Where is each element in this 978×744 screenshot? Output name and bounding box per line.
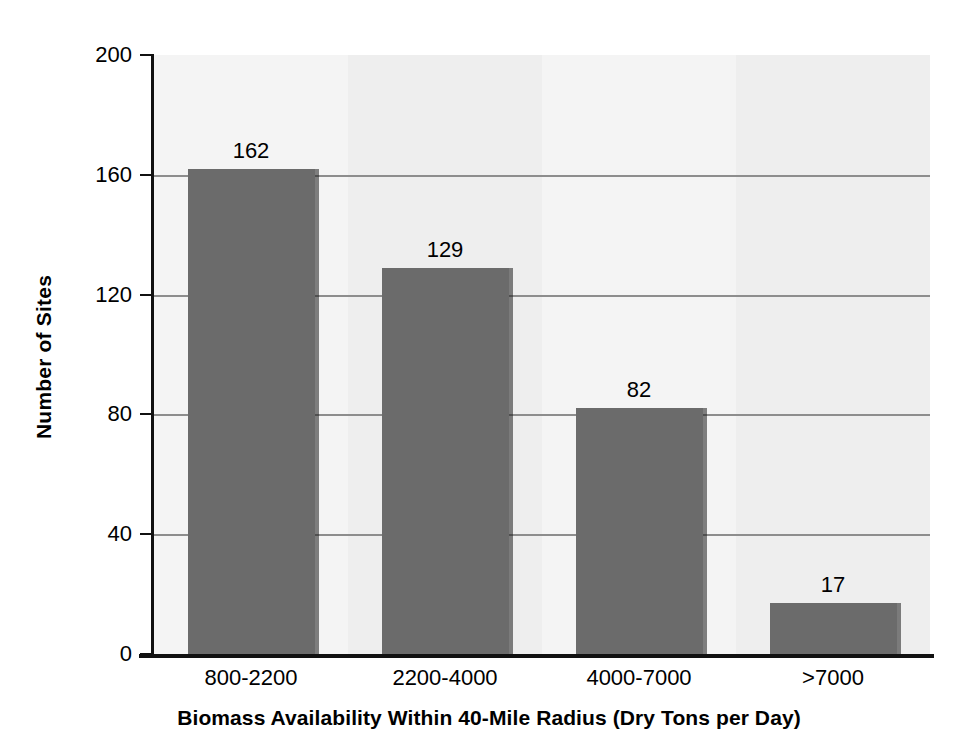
bar-chart: Number of Sites 20016012080400 162129821… bbox=[0, 0, 978, 744]
x-axis-category-label: >7000 bbox=[733, 665, 933, 691]
bar-value-label: 162 bbox=[191, 139, 311, 163]
x-axis-category-label: 4000-7000 bbox=[539, 665, 739, 691]
bar bbox=[382, 268, 509, 654]
y-axis-tick-mark bbox=[140, 54, 154, 56]
y-axis-tick-mark bbox=[140, 413, 154, 415]
bar bbox=[188, 169, 315, 654]
y-axis-tick-label: 200 bbox=[60, 44, 132, 66]
x-axis-category-label: 800-2200 bbox=[151, 665, 351, 691]
bar-value-label: 129 bbox=[385, 238, 505, 262]
y-axis-tick-mark bbox=[140, 653, 154, 655]
bar bbox=[576, 408, 703, 654]
y-axis-tick-label: 40 bbox=[60, 523, 132, 545]
y-axis-tick-mark bbox=[140, 533, 154, 535]
plot-background-band bbox=[736, 55, 930, 654]
bar-value-label: 17 bbox=[773, 573, 893, 597]
y-axis-tick-mark bbox=[140, 174, 154, 176]
bar-value-label: 82 bbox=[579, 378, 699, 402]
x-axis-title: Biomass Availability Within 40-Mile Radi… bbox=[0, 706, 978, 730]
x-axis-line bbox=[139, 654, 934, 658]
x-axis-category-label: 2200-4000 bbox=[345, 665, 545, 691]
y-axis-tick-label: 120 bbox=[60, 284, 132, 306]
y-axis-tick-label: 160 bbox=[60, 164, 132, 186]
bar bbox=[770, 603, 897, 654]
y-axis-tick-mark bbox=[140, 294, 154, 296]
y-axis-tick-label: 80 bbox=[60, 403, 132, 425]
y-axis-tick-label: 0 bbox=[60, 643, 132, 665]
y-axis-line bbox=[151, 55, 154, 656]
y-axis-title: Number of Sites bbox=[32, 207, 56, 507]
